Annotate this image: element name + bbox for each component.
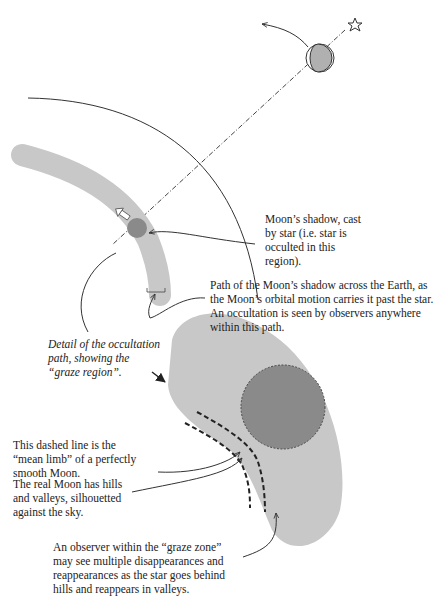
star-icon bbox=[348, 18, 362, 31]
label-real-moon: The real Moon has hills and valleys, sil… bbox=[13, 477, 128, 519]
moon-shadow-spot bbox=[127, 218, 147, 238]
callout-detail bbox=[81, 253, 116, 332]
callout-mean-limb bbox=[158, 452, 240, 472]
label-mean-limb: This dashed line is the “mean limb” of a… bbox=[13, 438, 148, 480]
label-graze-zone: An observer within the “graze zone” may … bbox=[53, 540, 243, 596]
label-shadow-path: Path of the Moon’s shadow across the Ear… bbox=[210, 278, 435, 334]
earth-limb-arc bbox=[28, 98, 258, 300]
label-moon-shadow: Moon’s shadow, cast by star (i.e. star i… bbox=[265, 212, 365, 268]
callout-real-moon bbox=[132, 458, 242, 492]
callout-shadow bbox=[149, 232, 255, 244]
orbital-motion-arrow bbox=[262, 24, 308, 47]
detail-moon-shadow bbox=[241, 365, 325, 449]
label-detail: Detail of the occultation path, showing … bbox=[48, 337, 163, 379]
moon-icon bbox=[306, 44, 334, 72]
